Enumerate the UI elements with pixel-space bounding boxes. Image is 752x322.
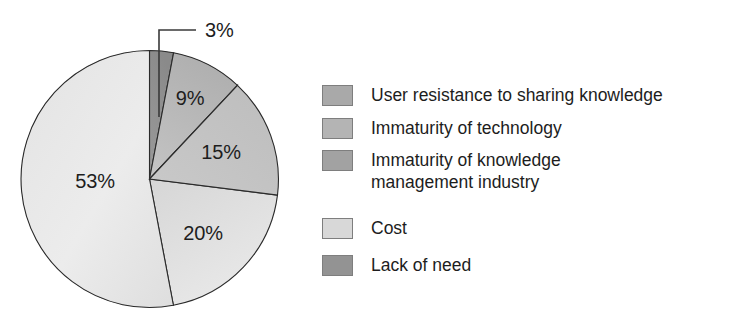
pie-chart-figure: 53% 20% 15% 9% 3% User resistance to sha… (0, 0, 752, 322)
pie-chart-svg (0, 0, 310, 322)
legend-swatch-icon-immaturity-km-industry (322, 150, 353, 171)
slice-label-3: 3% (205, 19, 234, 42)
legend-label-immaturity-km-industry: Immaturity of knowledge management indus… (371, 149, 561, 193)
pie-chart-area: 53% 20% 15% 9% 3% (0, 0, 310, 322)
legend-swatch-icon-user-resistance (322, 85, 353, 106)
legend-swatch-icon-immaturity-technology (322, 118, 353, 139)
slice-label-53: 53% (75, 170, 114, 193)
legend-label-immaturity-technology: Immaturity of technology (371, 117, 562, 139)
legend-item-immaturity-technology[interactable]: Immaturity of technology (322, 118, 562, 139)
slice-label-9: 9% (176, 87, 205, 110)
legend-swatch-icon-cost (322, 218, 353, 239)
legend-swatch-icon-lack-of-need (322, 255, 353, 276)
legend-item-user-resistance[interactable]: User resistance to sharing knowledge (322, 85, 663, 106)
legend-item-immaturity-km-industry[interactable]: Immaturity of knowledge management indus… (322, 150, 561, 193)
legend-item-lack-of-need[interactable]: Lack of need (322, 255, 471, 276)
legend-item-cost[interactable]: Cost (322, 218, 407, 239)
legend-label-lack-of-need: Lack of need (371, 254, 471, 276)
slice-label-15: 15% (201, 141, 240, 164)
slice-label-20: 20% (183, 222, 222, 245)
legend-label-cost: Cost (371, 217, 407, 239)
legend-label-user-resistance: User resistance to sharing knowledge (371, 84, 663, 106)
